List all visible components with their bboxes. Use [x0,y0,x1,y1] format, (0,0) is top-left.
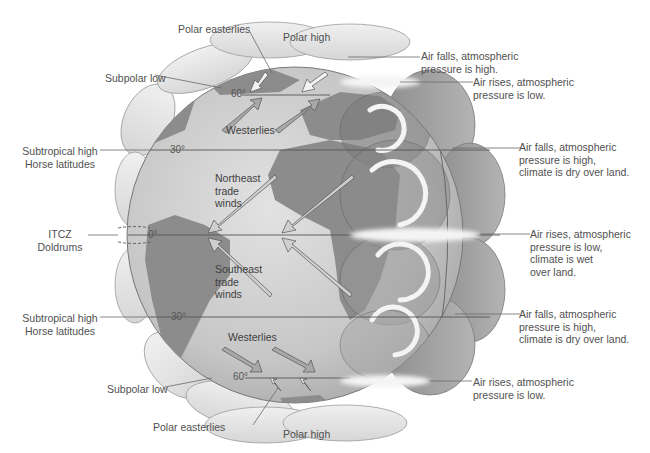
label-lat-0: 0° [148,229,158,240]
label-polar-high-north: Polar high [283,31,330,44]
label-lat-60s: 60° [233,371,248,382]
label-north-polar-high-desc: Air falls, atmospheric pressure is high. [421,50,518,75]
label-lat-60n: 60° [231,88,246,99]
label-polar-easterlies-north: Polar easterlies [178,23,250,36]
label-lat-30s: 30° [171,311,186,322]
label-subpolar-low-south: Subpolar low [107,383,168,396]
label-equator-desc: Air rises, atmospheric pressure is low, … [530,228,631,278]
label-subtropical-high-south: Subtropical high Horse latitudes [20,312,100,337]
label-polar-easterlies-south: Polar easterlies [153,421,225,434]
label-polar-high-south: Polar high [283,428,330,441]
label-westerlies-south: Westerlies [228,331,277,344]
label-se-trade-winds: Southeast trade winds [215,263,262,301]
label-subtropical-high-north: Subtropical high Horse latitudes [20,145,100,170]
label-lat-30n: 30° [170,144,185,155]
label-subpolar-low-north: Subpolar low [105,72,166,85]
label-westerlies-north: Westerlies [226,124,275,137]
label-north-30-desc: Air falls, atmospheric pressure is high,… [519,141,629,179]
label-south-60-desc: Air rises, atmospheric pressure is low. [473,376,574,401]
label-itcz-doldrums: ITCZ Doldrums [35,228,85,253]
label-north-60-desc: Air rises, atmospheric pressure is low. [473,76,574,101]
label-ne-trade-winds: Northeast trade winds [215,172,261,210]
label-south-30-desc: Air falls, atmospheric pressure is high,… [519,308,629,346]
